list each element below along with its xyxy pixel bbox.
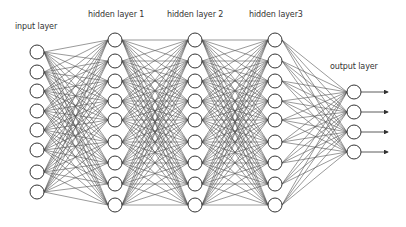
input-neuron: [30, 143, 44, 157]
input-neuron: [30, 104, 44, 118]
hidden2-neuron: [188, 177, 202, 191]
connection-edge: [282, 152, 347, 163]
hidden1-neuron: [108, 177, 122, 191]
hidden2-neuron: [188, 74, 202, 88]
output-neuron: [347, 105, 361, 119]
output-arrows: [361, 92, 388, 152]
output-layer-label: output layer: [330, 62, 378, 71]
connection-edge: [282, 132, 347, 142]
input-neuron: [30, 45, 44, 59]
hidden1-neuron: [108, 156, 122, 170]
hidden3-neuron: [268, 94, 282, 108]
output-neuron: [347, 145, 361, 159]
connection-edge: [282, 152, 347, 184]
connection-edge: [282, 40, 347, 132]
hidden3-neuron: [268, 33, 282, 47]
input-layer-label: input layer: [15, 22, 57, 31]
hidden2-neuron: [188, 94, 202, 108]
hidden3-neuron: [268, 135, 282, 149]
connection-edge: [44, 40, 108, 52]
input-neuron: [30, 123, 44, 137]
connection-edge: [44, 120, 108, 192]
hidden3-neuron: [268, 113, 282, 127]
hidden2-neuron: [188, 156, 202, 170]
hidden1-neuron: [108, 94, 122, 108]
input-neuron: [30, 65, 44, 79]
output-neuron: [347, 85, 361, 99]
hidden3-neuron: [268, 177, 282, 191]
hidden1-neuron: [108, 74, 122, 88]
hidden2-neuron: [188, 198, 202, 212]
hidden1-neuron: [108, 135, 122, 149]
output-neuron: [347, 125, 361, 139]
input-neuron: [30, 165, 44, 179]
connection-edge: [44, 111, 108, 184]
hidden1-neuron: [108, 113, 122, 127]
connection-edge: [282, 132, 347, 205]
hidden2-neuron: [188, 135, 202, 149]
hidden-layer-2-label: hidden layer 2: [167, 10, 223, 19]
hidden1-neuron: [108, 198, 122, 212]
hidden2-neuron: [188, 113, 202, 127]
hidden3-neuron: [268, 74, 282, 88]
connection-edge: [282, 40, 347, 112]
hidden1-neuron: [108, 54, 122, 68]
input-neuron: [30, 84, 44, 98]
hidden2-neuron: [188, 54, 202, 68]
hidden3-neuron: [268, 54, 282, 68]
input-neuron: [30, 185, 44, 199]
connection-edge: [282, 152, 347, 205]
hidden1-neuron: [108, 33, 122, 47]
connection-edge: [44, 61, 108, 192]
hidden-layer-1-label: hidden layer 1: [88, 10, 144, 19]
hidden3-neuron: [268, 156, 282, 170]
connection-edge: [282, 81, 347, 92]
neural-network-diagram: [0, 0, 406, 227]
hidden3-neuron: [268, 198, 282, 212]
hidden2-neuron: [188, 33, 202, 47]
hidden-layer-3-label: hidden layer3: [249, 10, 303, 19]
